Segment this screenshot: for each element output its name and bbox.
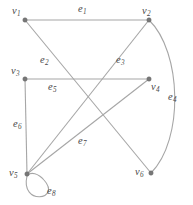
edge-e8 <box>26 173 48 196</box>
edge-label-subscript: 1 <box>83 8 87 16</box>
edge-label-e1: e1 <box>78 4 86 15</box>
graph-canvas <box>0 0 193 205</box>
vertex-v5 <box>25 172 29 176</box>
edge-e7 <box>27 79 149 174</box>
edge-label-subscript: 5 <box>53 86 57 94</box>
edge-label-base: e <box>168 91 173 102</box>
edge-e6 <box>25 79 27 174</box>
edge-label-subscript: 2 <box>45 59 49 67</box>
vertex-label-v3: v3 <box>11 66 19 77</box>
edge-label-base: e <box>13 118 18 129</box>
vertex-label-v4: v4 <box>151 82 159 93</box>
edge-label-e8: e8 <box>47 186 55 197</box>
edge-label-e7: e7 <box>78 136 86 147</box>
vertex-label-v5: v5 <box>9 168 17 179</box>
edge-e3 <box>27 20 149 174</box>
vertex-label-subscript: 2 <box>147 10 151 18</box>
vertex-label-base: v <box>142 5 147 16</box>
vertex-label-v1: v1 <box>12 6 20 17</box>
edge-label-base: e <box>48 81 53 92</box>
edges-group <box>25 20 175 197</box>
edge-label-e6: e6 <box>13 119 21 130</box>
vertex-label-subscript: 4 <box>156 86 160 94</box>
edge-label-base: e <box>116 54 121 65</box>
vertex-label-base: v <box>151 81 156 92</box>
vertex-v3 <box>23 77 27 81</box>
vertex-label-base: v <box>12 5 17 16</box>
edge-label-e5: e5 <box>48 82 56 93</box>
vertex-v1 <box>23 18 27 22</box>
edge-label-e3: e3 <box>116 55 124 66</box>
vertex-v2 <box>147 18 151 22</box>
edge-label-base: e <box>78 3 83 14</box>
vertex-label-base: v <box>9 167 14 178</box>
vertex-label-subscript: 1 <box>17 10 21 18</box>
edge-label-subscript: 8 <box>52 190 56 198</box>
edge-label-e2: e2 <box>40 55 48 66</box>
vertex-label-subscript: 3 <box>16 70 20 78</box>
edge-label-base: e <box>78 135 83 146</box>
edge-label-base: e <box>40 54 45 65</box>
edge-label-base: e <box>47 185 52 196</box>
edge-label-subscript: 3 <box>121 59 125 67</box>
edge-label-subscript: 6 <box>18 123 22 131</box>
vertex-v6 <box>149 171 153 175</box>
vertex-label-subscript: 6 <box>140 171 144 179</box>
edge-label-subscript: 7 <box>83 140 87 148</box>
vertex-label-base: v <box>135 166 140 177</box>
vertex-label-v2: v2 <box>142 6 150 17</box>
edge-label-e4: e4 <box>168 92 176 103</box>
vertex-label-subscript: 5 <box>14 172 18 180</box>
edge-label-subscript: 4 <box>173 96 177 104</box>
vertex-label-v6: v6 <box>135 167 143 178</box>
vertex-label-base: v <box>11 65 16 76</box>
graph-figure: e1e2e3e4e5e6e7e8v1v2v3v4v5v6 <box>0 0 193 205</box>
